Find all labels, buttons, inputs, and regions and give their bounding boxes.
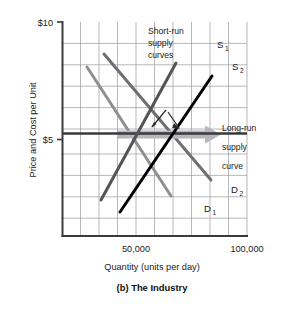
- industry-supply-demand-figure: $10 $5 50,000 100,000 Price and Cost per…: [0, 0, 305, 310]
- chart-svg: $10 $5 50,000 100,000 Price and Cost per…: [0, 0, 305, 310]
- curve-label-s2-base: S: [232, 61, 238, 72]
- long-run-supply-label-line-3: curve: [222, 161, 243, 171]
- curve-label-s1-sub: 1: [225, 45, 229, 52]
- y-tick-label-10: $10: [38, 18, 53, 28]
- y-axis-title: Price and Cost per Unit: [28, 82, 38, 177]
- curve-label-s2-sub: 2: [240, 67, 244, 74]
- curve-label-d2-base: D: [231, 184, 238, 195]
- short-run-supply-label-line-3: curves: [148, 50, 173, 60]
- long-run-supply-label-line-1: Long-run: [222, 123, 257, 133]
- short-run-supply-label-line-1: Short-run: [148, 26, 184, 36]
- x-tick-label-50000: 50,000: [122, 244, 150, 254]
- x-tick-label-100000: 100,000: [230, 244, 263, 254]
- curve-label-d1-base: D: [204, 203, 211, 214]
- x-axis-title: Quantity (units per day): [104, 262, 200, 272]
- figure-caption: (b) The Industry: [117, 282, 189, 293]
- y-tick-label-5: $5: [43, 135, 53, 145]
- long-run-supply-label-line-2: supply: [222, 142, 248, 152]
- curve-label-d1-sub: 1: [213, 209, 217, 216]
- curve-label-s1-base: S: [217, 39, 223, 50]
- curve-label-d2-sub: 2: [240, 190, 244, 197]
- short-run-supply-label-line-2: supply: [148, 38, 174, 48]
